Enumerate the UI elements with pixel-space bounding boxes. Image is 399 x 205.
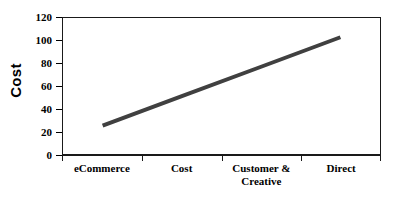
y-axis-title-text: Cost (7, 63, 24, 98)
x-axis-category-label-line: Creative (222, 175, 302, 188)
x-axis-category-label: eCommerce (62, 162, 142, 175)
x-axis-tick-mark (380, 156, 381, 161)
data-series-line-cost (103, 37, 341, 125)
chart-screenshot: Cost 020406080100120 eCommerceCostCustom… (0, 0, 399, 205)
y-axis-tick-label: 40 (26, 103, 56, 115)
x-axis-tick-marks (62, 156, 381, 161)
y-axis-tick-label: 80 (26, 57, 56, 69)
y-axis-tick-label: 20 (26, 126, 56, 138)
x-axis-category-label: Cost (142, 162, 222, 175)
y-axis-tick-label: 100 (26, 34, 56, 46)
y-axis-tick-label: 0 (26, 149, 56, 161)
data-line-svg (63, 18, 380, 154)
x-axis-category-label-line: eCommerce (62, 162, 142, 175)
y-axis-tick-label: 120 (26, 11, 56, 23)
x-axis-tick-mark (301, 156, 302, 161)
plot-area (62, 17, 381, 155)
x-axis-tick-mark (62, 156, 63, 161)
y-axis-tick-labels: 020406080100120 (26, 17, 56, 155)
x-axis-category-labels: eCommerceCostCustomer &CreativeDirect (62, 162, 381, 202)
x-axis-category-label-line: Direct (301, 162, 381, 175)
y-axis-tick-label: 60 (26, 80, 56, 92)
x-axis-tick-mark (142, 156, 143, 161)
x-axis-category-label: Direct (301, 162, 381, 175)
x-axis-tick-mark (222, 156, 223, 161)
x-axis-category-label-line: Customer & (222, 162, 302, 175)
x-axis-category-label-line: Cost (142, 162, 222, 175)
x-axis-category-label: Customer &Creative (222, 162, 302, 188)
